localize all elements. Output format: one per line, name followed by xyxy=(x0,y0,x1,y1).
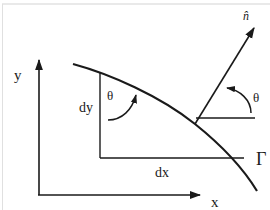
dx-label: dx xyxy=(155,165,169,180)
boundary-normal-diagram: y x dy dx θ θ Γ n̂ xyxy=(0,0,270,210)
diagram-svg: y x dy dx θ θ Γ n̂ xyxy=(0,0,270,210)
x-axis-label: x xyxy=(211,194,219,210)
normal-vector-label: n̂ xyxy=(243,9,249,23)
theta-right-label: θ xyxy=(253,90,259,105)
dy-label: dy xyxy=(79,100,93,115)
y-axis-label: y xyxy=(14,67,22,83)
theta-left-label: θ xyxy=(107,88,113,103)
normal-vector-arrow xyxy=(195,28,254,124)
theta-right-arc-arrow xyxy=(227,88,251,113)
boundary-gamma-label: Γ xyxy=(256,149,266,169)
